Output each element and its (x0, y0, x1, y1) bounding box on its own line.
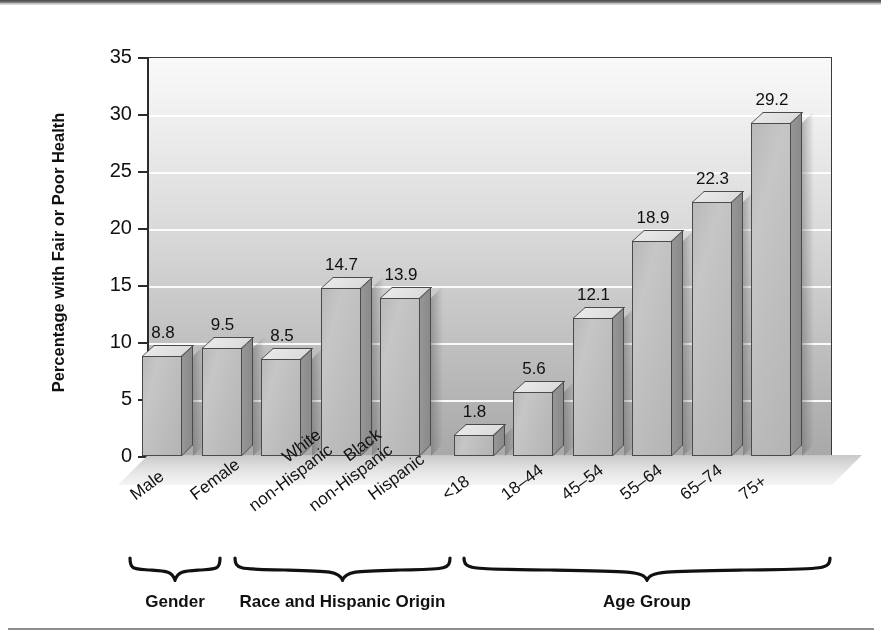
group-label-gender: Gender (128, 592, 222, 612)
x-tick-label: 65–74 (677, 461, 726, 504)
x-tick-label: 55–64 (617, 461, 666, 504)
figure: Percentage with Fair or Poor Health 35 3… (0, 0, 881, 644)
x-tick-label: 18–44 (498, 461, 547, 504)
group-label-race: Race and Hispanic Origin (213, 592, 472, 612)
x-tick-label: <18 (439, 472, 473, 504)
group-label-age: Age Group (462, 592, 832, 612)
bottom-rule (8, 628, 874, 630)
brace-gender (128, 556, 222, 582)
x-tick-label: 45–54 (558, 461, 607, 504)
brace-race (233, 556, 452, 582)
x-tick-label: 75+ (736, 472, 770, 504)
category-labels: MaleFemaleWhitenon-HispanicBlacknon-Hisp… (0, 0, 881, 644)
brace-age (462, 556, 832, 582)
x-tick-label: Female (187, 456, 243, 505)
x-tick-label: Male (127, 467, 167, 504)
